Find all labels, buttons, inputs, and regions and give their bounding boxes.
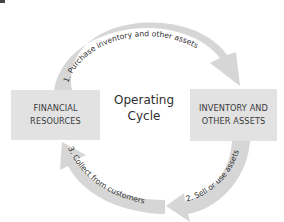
inventory-assets-box: INVENTORY AND OTHER ASSETS (190, 89, 277, 141)
arrow-sell: 2. Sell or use assets (166, 141, 250, 222)
inventory-assets-line2: OTHER ASSETS (199, 115, 268, 128)
arrow-collect: 3. Collect from customers (60, 142, 165, 214)
arrow-purchase-label: 1. Purchase inventory and other assets (62, 29, 200, 83)
center-label-line1: Operating (108, 92, 180, 108)
inventory-assets-line1: INVENTORY AND (199, 102, 268, 115)
financial-resources-line1: FINANCIAL (30, 102, 81, 115)
financial-resources-box: FINANCIAL RESOURCES (11, 90, 100, 140)
operating-cycle-diagram: 1. Purchase inventory and other assets 2… (0, 0, 284, 222)
operating-cycle-label: Operating Cycle (108, 92, 180, 124)
financial-resources-line2: RESOURCES (30, 115, 81, 128)
arrow-purchase: 1. Purchase inventory and other assets (54, 23, 240, 90)
center-label-line2: Cycle (108, 108, 180, 124)
